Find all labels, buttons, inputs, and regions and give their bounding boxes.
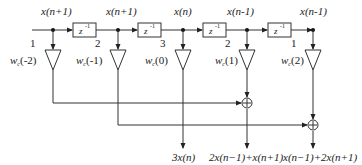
- coeff-label-4: wc(1): [215, 54, 238, 67]
- tap-5-index: 1: [291, 37, 297, 49]
- tap-5-signal-label: x(n-1): [299, 5, 327, 18]
- adder-2: [308, 120, 318, 130]
- coeff-label-2: wc(-1): [76, 54, 103, 67]
- svg-text:wc(1): wc(1): [215, 54, 238, 67]
- svg-text:-1: -1: [215, 23, 220, 29]
- tap-2-index: 2: [95, 37, 101, 49]
- adder-1: [242, 98, 252, 108]
- svg-text:-1: -1: [85, 23, 90, 29]
- coeff-label-5: wc(2): [281, 54, 304, 67]
- output-label-1: 3x(n): [171, 151, 196, 164]
- svg-text:z: z: [143, 26, 148, 36]
- svg-text:z: z: [273, 26, 278, 36]
- tap-4-signal-label: x(n-1): [226, 5, 254, 18]
- output-label-2: 2x(n−1)+x(n+1): [209, 151, 284, 164]
- tap-3-index: 3: [160, 37, 166, 49]
- tap-2-signal-label: x(n+1): [105, 5, 137, 18]
- svg-text:wc(2): wc(2): [281, 54, 304, 67]
- svg-text:-1: -1: [280, 23, 285, 29]
- delay-block-2: z -1: [138, 23, 161, 37]
- output-label-3: x(n−1)+2x(n+1): [282, 151, 358, 164]
- coeff-label-3: wc(0): [145, 54, 168, 67]
- fir-flow-diagram: z -1 z -1 z -1 z -1 x(n+1) x(n+1) x(n) x…: [0, 0, 362, 165]
- svg-text:wc(-2): wc(-2): [10, 54, 37, 67]
- delay-block-3: z -1: [203, 23, 226, 37]
- svg-text:z: z: [208, 26, 213, 36]
- svg-text:wc(0): wc(0): [145, 54, 168, 67]
- coeff-label-1: wc(-2): [10, 54, 37, 67]
- tap-1-signal-label: x(n+1): [40, 5, 72, 18]
- delay-block-4: z -1: [268, 23, 291, 37]
- svg-text:wc(-1): wc(-1): [76, 54, 103, 67]
- tap-1-index: 1: [30, 37, 36, 49]
- svg-text:z: z: [78, 26, 83, 36]
- tap-3-signal-label: x(n): [173, 5, 192, 18]
- summation-routing: [53, 70, 313, 148]
- tap-4-index: 2: [225, 37, 231, 49]
- delay-block-1: z -1: [73, 23, 96, 37]
- svg-text:-1: -1: [150, 23, 155, 29]
